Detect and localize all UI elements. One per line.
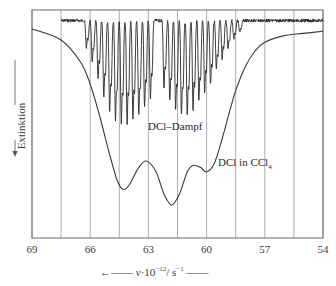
x-tick-label: 66 (85, 243, 96, 255)
x-axis-scale: ·10 (141, 266, 156, 278)
gas-annotation: DCl–Dampf (148, 120, 202, 132)
right-arrow-line: —— (187, 266, 209, 278)
x-tick-label: 63 (143, 243, 154, 255)
x-tick-label: 69 (27, 243, 38, 255)
x-tick-label: 54 (318, 243, 329, 255)
left-arrow-icon: ←—— (100, 266, 133, 278)
x-axis-exponent: −12 (155, 265, 166, 273)
x-tick-label: 57 (259, 243, 270, 255)
spectrum-chart (0, 0, 336, 286)
x-axis-label: ←—— ν·10−12/ s−1 —— (100, 265, 209, 278)
solution-annotation-subscript: 4 (268, 163, 272, 171)
y-axis-label: Extinktion (15, 81, 27, 171)
x-axis-unit-exponent: −1 (176, 265, 183, 273)
solution-annotation-text: DCl in CCl (218, 156, 268, 168)
x-tick-label: 60 (201, 243, 212, 255)
gas-spectrum-line (61, 19, 323, 125)
x-axis-unit: / s (166, 266, 176, 278)
solution-annotation: DCl in CCl4 (218, 156, 272, 171)
